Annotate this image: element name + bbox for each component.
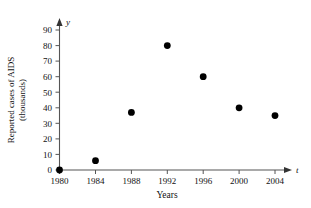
x-tick-label-1984: 1984 [87,176,106,186]
y-tick-label-30: 30 [43,119,53,129]
x-tick-label-2004: 2004 [266,176,285,186]
y-tick-label-50: 50 [43,88,53,98]
data-point-1984 [92,157,99,164]
x-axis-variable-label: t [296,165,299,175]
data-point-2004 [272,112,279,119]
x-tick-label-2000: 2000 [230,176,249,186]
chart-canvas: y 0 10 20 30 40 50 60 70 80 90 t [0,0,311,208]
x-tick-label-1980: 1980 [51,176,70,186]
x-tick-label-1988: 1988 [122,176,141,186]
y-axis-variable-label: y [65,17,70,27]
y-tick-label-90: 90 [43,25,53,35]
x-tick-label-1996: 1996 [194,176,213,186]
aids-cases-scatter-chart: y 0 10 20 30 40 50 60 70 80 90 t [0,0,311,208]
data-point-2000 [236,104,243,111]
data-point-1992 [164,42,171,49]
x-axis-arrowhead [284,167,292,173]
x-axis-caption: Years [156,190,178,200]
x-tick-label-1992: 1992 [158,176,176,186]
data-point-1996 [200,73,207,80]
y-axis-caption-line1: Reported cases of AIDS [6,57,16,144]
y-tick-label-10: 10 [43,150,53,160]
y-tick-label-20: 20 [43,134,53,144]
y-axis-arrowhead [56,18,62,26]
y-tick-label-80: 80 [43,41,53,51]
y-tick-label-70: 70 [43,56,53,66]
y-tick-label-60: 60 [43,72,53,82]
y-tick-label-0: 0 [48,165,53,175]
data-point-1980 [56,167,63,174]
data-point-1988 [128,109,135,116]
y-tick-label-40: 40 [43,103,53,113]
y-axis-caption-line2: (thousands) [17,79,27,121]
